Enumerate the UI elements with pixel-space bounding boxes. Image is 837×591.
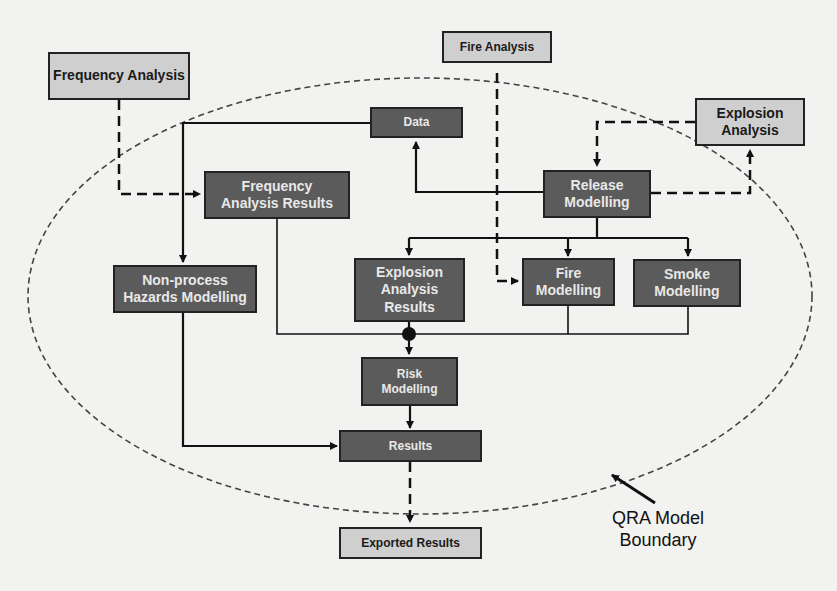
smoke-modelling-label: Smoke Modelling bbox=[647, 266, 727, 300]
connector-fire-analysis-to-fire-modelling bbox=[497, 73, 518, 281]
connector-freq-analysis-to-results bbox=[119, 100, 200, 194]
fire-analysis-label: Fire Analysis bbox=[460, 40, 534, 55]
frequency-analysis-results-box: Frequency Analysis Results bbox=[204, 171, 350, 219]
risk-modelling-label: Risk Modelling bbox=[375, 367, 445, 396]
frequency-analysis-box: Frequency Analysis bbox=[48, 52, 190, 100]
risk-modelling-box: Risk Modelling bbox=[361, 357, 458, 406]
frequency-analysis-results-label: Frequency Analysis Results bbox=[212, 178, 342, 212]
boundary-label-line-1: QRA Model bbox=[598, 508, 718, 530]
smoke-modelling-box: Smoke Modelling bbox=[633, 259, 741, 307]
explosion-analysis-box: Explosion Analysis bbox=[695, 98, 805, 146]
connector-nonprocess-to-results bbox=[183, 312, 337, 446]
qra-model-boundary-label: QRA Model Boundary bbox=[598, 508, 718, 551]
fire-analysis-box: Fire Analysis bbox=[442, 31, 552, 63]
frequency-analysis-label: Frequency Analysis bbox=[53, 67, 185, 84]
release-modelling-box: Release Modelling bbox=[543, 170, 651, 218]
exported-results-box: Exported Results bbox=[339, 527, 482, 559]
junction-node bbox=[402, 327, 416, 341]
non-process-hazards-modelling-label: Non-process Hazards Modelling bbox=[115, 272, 255, 306]
explosion-analysis-label: Explosion Analysis bbox=[697, 105, 803, 139]
connector-release-split bbox=[409, 218, 688, 238]
data-label: Data bbox=[403, 115, 429, 130]
exported-results-label: Exported Results bbox=[361, 536, 460, 551]
fire-modelling-label: Fire Modelling bbox=[529, 265, 609, 299]
non-process-hazards-modelling-box: Non-process Hazards Modelling bbox=[113, 265, 257, 313]
boundary-label-line-2: Boundary bbox=[598, 530, 718, 552]
explosion-analysis-results-box: Explosion Analysis Results bbox=[354, 258, 465, 322]
data-box: Data bbox=[370, 107, 463, 138]
connector-release-to-data bbox=[416, 142, 543, 192]
release-modelling-label: Release Modelling bbox=[557, 177, 637, 211]
results-box: Results bbox=[339, 430, 482, 462]
connector-explosion-analysis-to-release bbox=[597, 122, 695, 166]
explosion-analysis-results-label: Explosion Analysis Results bbox=[370, 264, 450, 315]
fire-modelling-box: Fire Modelling bbox=[522, 258, 615, 306]
connector-release-to-explosion-analysis bbox=[651, 150, 750, 193]
results-label: Results bbox=[389, 439, 432, 454]
